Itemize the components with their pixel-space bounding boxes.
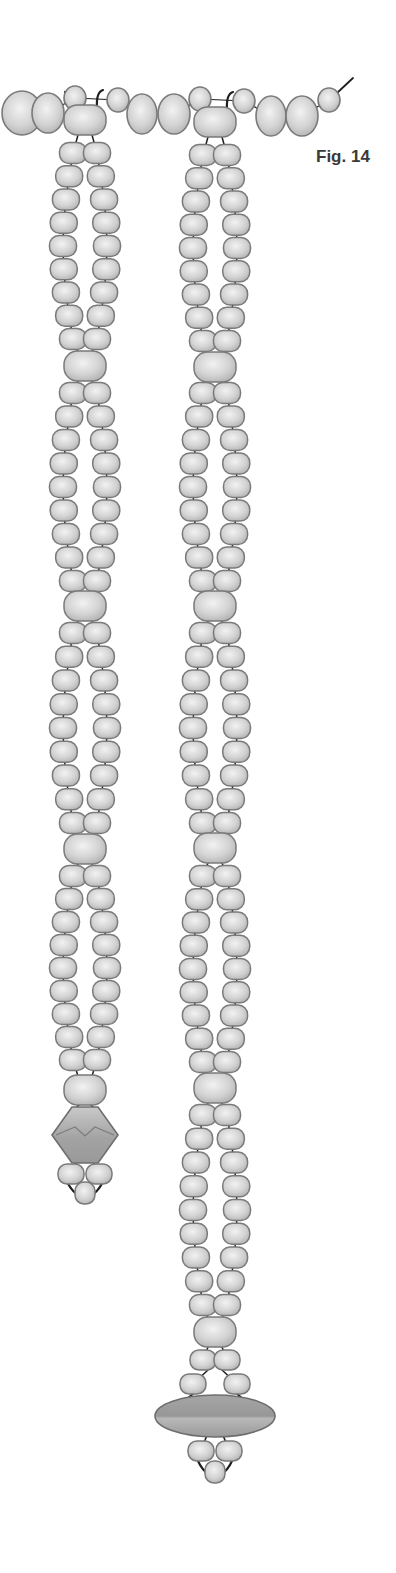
- seed-bead-right: [217, 1271, 244, 1292]
- large-round-bead: [286, 96, 318, 136]
- seed-bead-left: [60, 866, 87, 887]
- seed-bead-right: [221, 765, 248, 786]
- seed-bead-left: [60, 813, 87, 834]
- seed-bead-left: [50, 236, 77, 257]
- seed-bead-right: [221, 191, 248, 212]
- seed-bead-right: [217, 646, 244, 667]
- large-round-bead: [158, 94, 190, 134]
- seed-bead-right: [84, 329, 111, 350]
- seed-bead-right: [214, 623, 241, 644]
- seed-bead-right: [214, 1105, 241, 1126]
- seed-bead-left: [50, 935, 77, 956]
- large-spacer-bead: [64, 591, 106, 621]
- seed-bead-right: [94, 718, 121, 739]
- seed-bead-left: [182, 1247, 209, 1268]
- seed-bead-left: [182, 430, 209, 451]
- seed-bead-left: [50, 981, 77, 1002]
- large-spacer-bead: [64, 834, 106, 864]
- seed-bead-left: [180, 214, 207, 235]
- seed-bead-right: [87, 1027, 114, 1048]
- seed-bead-right: [94, 958, 121, 979]
- seed-bead-left: [60, 1050, 87, 1071]
- seed-bead-left: [190, 813, 217, 834]
- seed-bead-right: [224, 1200, 251, 1221]
- seed-bead-right: [87, 406, 114, 427]
- seed-bead-right: [84, 383, 111, 404]
- seed-bead-right: [217, 307, 244, 328]
- seed-bead-left: [52, 1004, 79, 1025]
- seed-bead-right: [217, 1028, 244, 1049]
- seed-bead-right: [214, 1052, 241, 1073]
- seed-bead-right: [91, 912, 118, 933]
- large-spacer-bead: [64, 1075, 106, 1105]
- seed-bead-right: [84, 866, 111, 887]
- seed-bead-right: [214, 866, 241, 887]
- seed-bead-right: [87, 305, 114, 326]
- seed-bead-right: [87, 789, 114, 810]
- large-spacer-bead: [194, 833, 236, 863]
- seed-bead-left: [180, 982, 207, 1003]
- seed-bead-right: [214, 1295, 241, 1316]
- seed-bead-left: [182, 1005, 209, 1026]
- seed-bead-right: [223, 500, 250, 521]
- seed-bead-left: [50, 500, 77, 521]
- seed-bead-left: [182, 191, 209, 212]
- seed-bead-left: [190, 1052, 217, 1073]
- seed-bead-right: [221, 1152, 248, 1173]
- seed-bead-left: [56, 166, 83, 187]
- seed-bead-right: [91, 670, 118, 691]
- seed-bead-left: [56, 646, 83, 667]
- seed-bead-right: [91, 765, 118, 786]
- seed-bead-right: [87, 547, 114, 568]
- seed-bead-left: [180, 935, 207, 956]
- seed-bead-right: [87, 889, 114, 910]
- seed-bead-left: [180, 1223, 207, 1244]
- seed-bead-right: [221, 284, 248, 305]
- seed-bead-left: [186, 1271, 213, 1292]
- seed-bead-right: [84, 571, 111, 592]
- seed-bead-right: [224, 238, 251, 259]
- seed-bead-left: [186, 1128, 213, 1149]
- seed-bead-right: [214, 331, 241, 352]
- seed-bead-left: [190, 571, 217, 592]
- seed-bead-left: [186, 406, 213, 427]
- seed-bead-left: [50, 741, 77, 762]
- seed-bead-left: [180, 477, 207, 498]
- seed-bead-left: [56, 406, 83, 427]
- seed-bead-left: [190, 1105, 217, 1126]
- end-bead-left: [58, 1164, 84, 1184]
- large-round-bead: [127, 94, 157, 134]
- seed-bead-right: [223, 1223, 250, 1244]
- large-spacer-bead: [194, 352, 236, 382]
- bead-layer: [2, 86, 340, 1483]
- seed-bead-left: [180, 238, 207, 259]
- seed-bead-right: [223, 1176, 250, 1197]
- seed-bead-left: [190, 145, 217, 166]
- seed-bead-right: [91, 524, 118, 545]
- seed-bead-left: [186, 547, 213, 568]
- seed-bead-right: [91, 282, 118, 303]
- seed-bead-left: [52, 670, 79, 691]
- seed-bead-left: [60, 571, 87, 592]
- seed-bead-right: [224, 959, 251, 980]
- seed-bead-right: [84, 813, 111, 834]
- seed-bead-left: [180, 694, 207, 715]
- seed-bead-right: [93, 259, 120, 280]
- seed-bead-left: [186, 168, 213, 189]
- seed-bead-right: [217, 168, 244, 189]
- seed-bead-left: [186, 889, 213, 910]
- diamond-pendant: [52, 1107, 118, 1163]
- seed-bead-left: [180, 1374, 206, 1394]
- small-round-bead: [233, 89, 255, 113]
- seed-bead-right: [214, 383, 241, 404]
- seed-bead-left: [186, 1028, 213, 1049]
- seed-bead-right: [84, 143, 111, 164]
- seed-bead-right: [221, 1247, 248, 1268]
- thread: [337, 78, 353, 93]
- seed-bead-left: [182, 765, 209, 786]
- large-spacer-bead: [194, 1317, 236, 1347]
- seed-bead-left: [180, 1176, 207, 1197]
- seed-bead-left: [50, 453, 77, 474]
- seed-bead-left: [56, 1027, 83, 1048]
- seed-bead-left: [182, 912, 209, 933]
